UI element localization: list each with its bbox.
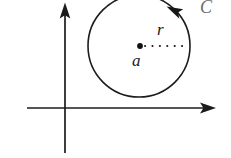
- radius-label: r: [157, 20, 164, 39]
- center-label: a: [132, 51, 141, 70]
- contour-label: C: [200, 0, 213, 17]
- contour-diagram-svg: r a C: [0, 0, 231, 158]
- figure-canvas: r a C: [0, 0, 231, 158]
- center-point-dot: [137, 43, 143, 49]
